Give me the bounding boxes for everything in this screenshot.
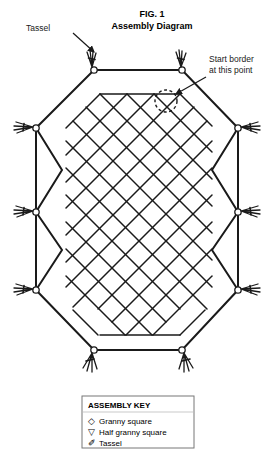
tassel-right-upper <box>235 122 260 133</box>
figure-number: FIG. 1 <box>139 9 164 19</box>
tassel-leader-line <box>73 33 94 52</box>
start-border-label-line1: Start border <box>209 54 254 64</box>
granny-square-lattice <box>66 94 212 335</box>
start-border-label-line2: at this point <box>209 65 253 75</box>
right-edge-zigzag <box>212 128 238 290</box>
left-edge-zigzag <box>36 128 62 290</box>
triangle-down-glyph: ▽ <box>88 427 95 437</box>
tassel-glyph: ✐ <box>88 438 96 448</box>
tassel-bottom-left <box>83 347 97 372</box>
tassel-left-upper <box>14 122 39 133</box>
diamond-glyph: ◇ <box>88 416 95 426</box>
tassel-label: Tassel <box>26 23 50 33</box>
legend-title: ASSEMBLY KEY <box>88 401 151 410</box>
figure-title: Assembly Diagram <box>111 21 192 31</box>
legend-item-half-granny-square: Half granny square <box>99 428 167 437</box>
legend-item-granny-square: Granny square <box>99 417 152 426</box>
tassel-top-left <box>87 50 97 73</box>
assembly-key-legend: ASSEMBLY KEY ◇ Granny square ▽ Half gran… <box>82 396 194 448</box>
assembly-diagram-figure: FIG. 1 Assembly Diagram Tassel Start bor… <box>0 0 274 455</box>
legend-item-tassel: Tassel <box>99 439 122 448</box>
tassel-bottom-right <box>179 347 193 372</box>
